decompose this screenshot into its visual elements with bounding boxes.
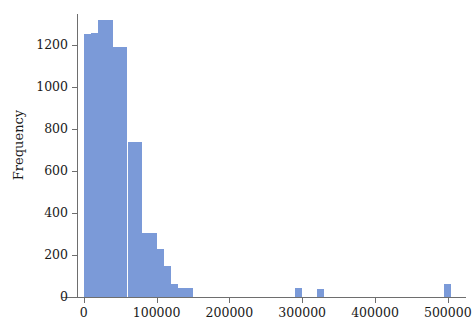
- histogram-bar: [142, 233, 149, 297]
- y-tick-mark: [72, 297, 78, 298]
- x-tick-mark: [84, 298, 85, 303]
- histogram-bar: [295, 288, 302, 297]
- x-tick-mark: [375, 298, 376, 303]
- histogram-bar: [186, 288, 193, 297]
- histogram-bar: [135, 142, 142, 297]
- histogram-bar: [164, 266, 171, 297]
- histogram-bars: [78, 14, 466, 297]
- x-tick-mark: [157, 298, 158, 303]
- histogram-bar: [317, 289, 324, 297]
- y-tick-label: 1000: [0, 79, 68, 94]
- x-tick-label: 500000: [388, 305, 476, 320]
- histogram-bar: [128, 142, 135, 297]
- y-tick-label: 1200: [0, 37, 68, 52]
- histogram-bar: [106, 20, 113, 297]
- histogram-bar: [120, 47, 127, 297]
- x-tick-mark: [448, 298, 449, 303]
- x-axis-line: [62, 297, 466, 298]
- y-tick-label: 600: [0, 163, 68, 178]
- y-tick-label: 200: [0, 247, 68, 262]
- y-tick-label: 0: [0, 289, 68, 304]
- histogram-bar: [98, 20, 105, 297]
- histogram-bar: [84, 34, 91, 297]
- y-axis-label: Frequency: [10, 95, 28, 195]
- x-tick-mark: [302, 298, 303, 303]
- histogram-bar: [444, 284, 451, 297]
- histogram-bar: [149, 233, 156, 297]
- histogram-bar: [157, 249, 164, 297]
- x-tick-mark: [229, 298, 230, 303]
- y-tick-label: 400: [0, 205, 68, 220]
- histogram-bar: [178, 288, 185, 297]
- histogram-bar: [91, 33, 98, 297]
- y-tick-label: 800: [0, 121, 68, 136]
- histogram-bar: [171, 284, 178, 297]
- histogram-bar: [113, 47, 120, 297]
